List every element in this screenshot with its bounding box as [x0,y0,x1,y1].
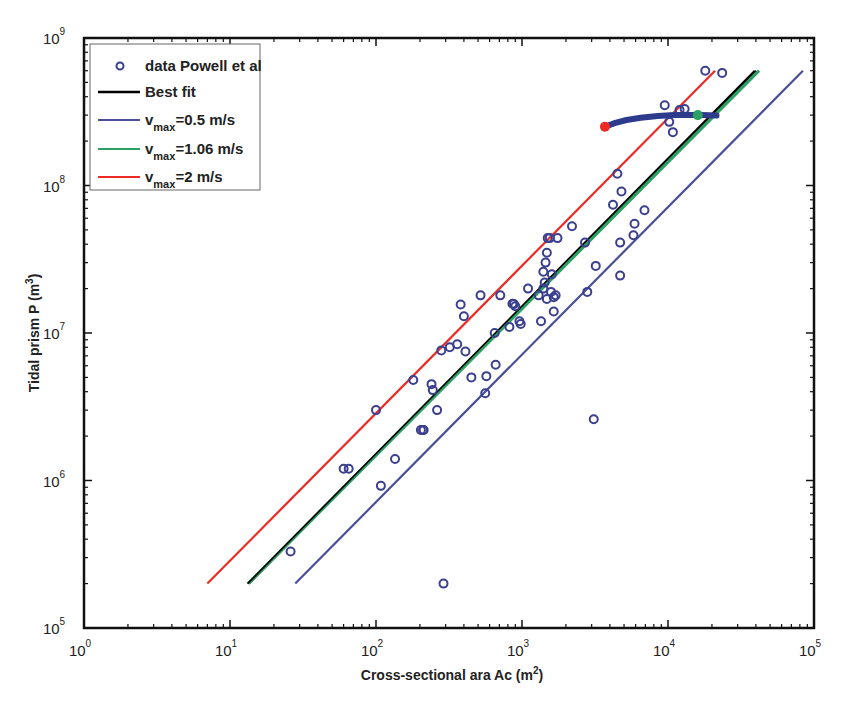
data-point-marker [461,347,469,355]
marker-dot [693,110,703,120]
data-point-marker [457,301,465,309]
data-point-marker [665,118,673,126]
log-log-chart: 100101102103104105 105106107108109 Cross… [0,0,848,713]
data-point-marker [590,415,598,423]
data-point-marker [616,272,624,280]
data-point-marker [467,373,475,381]
data-point-marker [477,291,485,299]
data-point-marker [629,231,637,239]
y-tick-label: 107 [43,321,66,342]
data-point-marker [718,69,726,77]
legend-label: Best fit [145,83,196,100]
legend-label: data Powell et al [145,57,262,74]
y-tick-label: 109 [43,26,66,47]
vmax-0-5-m-s-line [295,71,803,584]
data-point-marker [613,170,621,178]
data-point-marker [640,206,648,214]
data-point-marker [550,307,558,315]
data-point-marker [440,580,448,588]
vmax-1-06-m-s-line [248,71,759,584]
data-point-marker [616,239,624,247]
x-tick-label: 103 [507,638,530,659]
data-point-marker [453,340,461,348]
marker-dot [600,122,610,132]
data-point-marker [609,201,617,209]
data-point-marker [617,188,625,196]
data-point-marker [496,291,504,299]
data-point-marker [482,372,490,380]
data-point-marker [492,361,500,369]
x-tick-label: 101 [215,638,238,659]
x-tick-label: 102 [361,638,384,659]
data-point-marker [568,222,576,230]
data-point-marker [391,455,399,463]
x-axis-title: Cross-sectional ara Ac (m2) [361,665,543,683]
data-point-marker [543,249,551,257]
best-fit-line-edge [248,71,755,584]
data-point-marker [701,67,709,75]
x-tick-label: 100 [69,638,92,659]
data-point-marker [505,323,513,331]
data-point-marker [631,220,639,228]
legend: data Powell et alBest fitvmax=0.5 m/svma… [90,44,262,190]
x-tick-label: 105 [799,638,822,659]
data-point-marker [661,101,669,109]
x-tick-label: 104 [653,638,676,659]
y-tick-label: 106 [43,469,66,490]
data-point-marker [592,262,600,270]
data-point-marker [537,317,545,325]
data-point-marker [377,482,385,490]
data-point-marker [524,285,532,293]
data-point-marker [539,268,547,276]
vmax-2-m-s-line [207,71,715,584]
y-tick-label: 105 [43,616,66,637]
y-axis-title: Tidal prism P (m3) [24,274,42,393]
data-point-marker [542,259,550,267]
data-point-marker [669,128,677,136]
data-point-marker [345,465,353,473]
data-point-marker [433,406,441,414]
data-point-marker [460,312,468,320]
data-point-marker [409,376,417,384]
data-point-marker [287,548,295,556]
y-tick-label: 108 [43,174,66,195]
data-point-marker [681,105,689,113]
